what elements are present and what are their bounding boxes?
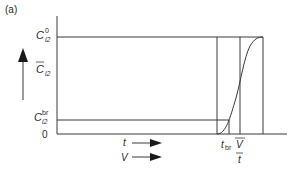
breakthrough-curve-diagram: (a) C 0 i2 C i2 C br i2 0 t br V t [0, 0, 297, 173]
svg-text:t: t [123, 137, 127, 148]
t-direction-arrow: t [123, 137, 162, 148]
v-direction-arrow: V [121, 152, 162, 163]
svg-text:C: C [36, 29, 44, 41]
y-label-zero: 0 [42, 129, 48, 140]
svg-text:t: t [238, 154, 242, 165]
svg-text:i2: i2 [42, 118, 48, 125]
x-label-v-over-t: V t [235, 138, 245, 165]
svg-text:C: C [36, 63, 44, 75]
svg-text:0: 0 [45, 27, 49, 34]
y-label-c-mean: C i2 [36, 62, 51, 77]
right-arrow-icon [150, 139, 162, 147]
svg-text:br: br [42, 109, 49, 116]
svg-text:C: C [34, 111, 42, 123]
y-label-c-top: C 0 i2 [36, 27, 51, 43]
svg-text:V: V [121, 152, 129, 163]
up-arrow-icon [18, 48, 28, 62]
svg-text:V: V [236, 139, 244, 150]
svg-text:i2: i2 [45, 70, 51, 77]
right-arrow-icon [150, 153, 162, 161]
svg-text:br: br [225, 144, 232, 151]
x-label-t-br: t br [221, 139, 232, 151]
svg-text:i2: i2 [45, 36, 51, 43]
y-label-c-br: C br i2 [34, 109, 49, 125]
panel-label: (a) [5, 4, 17, 15]
